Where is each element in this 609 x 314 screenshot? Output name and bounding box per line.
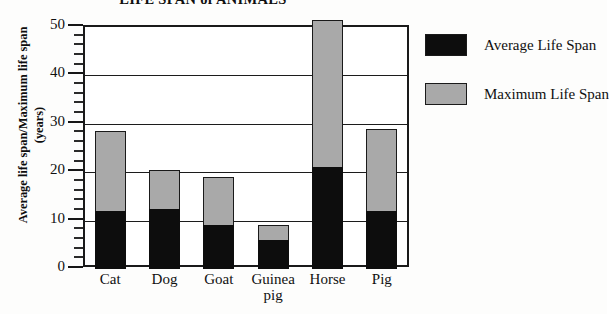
y-tick-label-50: 50 — [50, 17, 65, 32]
y-axis: 01020304050 — [0, 25, 83, 267]
y-tick-minor-38 — [74, 82, 83, 84]
y-tick-label-40: 40 — [50, 65, 65, 80]
legend-item-average[interactable]: Average Life Span — [425, 34, 605, 56]
y-tick-major-0 — [68, 266, 83, 268]
x-label-line: Goat — [204, 271, 233, 287]
y-tick-minor-44 — [74, 53, 83, 55]
y-tick-minor-18 — [74, 179, 83, 181]
legend-swatch-average — [425, 34, 467, 56]
y-tick-minor-32 — [74, 111, 83, 113]
y-tick-label-20: 20 — [50, 162, 65, 177]
y-tick-label-30: 30 — [50, 114, 65, 129]
y-tick-minor-22 — [74, 160, 83, 162]
chart-legend: Average Life SpanMaximum Life Span — [425, 34, 605, 132]
y-tick-minor-8 — [74, 227, 83, 229]
x-label-line: Cat — [100, 271, 121, 287]
bars-layer — [83, 0, 409, 269]
y-tick-minor-16 — [74, 189, 83, 191]
bar-group-horse[interactable] — [312, 2, 343, 269]
y-tick-minor-42 — [74, 63, 83, 65]
y-tick-minor-2 — [74, 256, 83, 258]
x-label-line: Dog — [152, 271, 178, 287]
y-tick-major-10 — [68, 218, 83, 220]
bar-group-dog[interactable] — [149, 2, 180, 269]
y-tick-major-30 — [68, 121, 83, 123]
bar-average-horse[interactable] — [312, 167, 343, 269]
bar-average-guinea-pig[interactable] — [258, 240, 289, 269]
legend-item-maximum[interactable]: Maximum Life Span — [425, 83, 605, 105]
bar-average-cat[interactable] — [95, 211, 126, 269]
y-tick-minor-46 — [74, 43, 83, 45]
y-tick-minor-6 — [74, 237, 83, 239]
y-tick-minor-48 — [74, 34, 83, 36]
x-label-line: pig — [233, 287, 313, 303]
x-label-pig: Pig — [342, 271, 422, 287]
bar-average-goat[interactable] — [203, 225, 234, 269]
y-tick-minor-28 — [74, 130, 83, 132]
bar-group-guinea-pig[interactable] — [258, 2, 289, 269]
bar-group-goat[interactable] — [203, 2, 234, 269]
y-tick-minor-4 — [74, 247, 83, 249]
y-tick-minor-14 — [74, 198, 83, 200]
y-tick-major-50 — [68, 24, 83, 26]
bar-group-pig[interactable] — [366, 2, 397, 269]
y-tick-label-10: 10 — [50, 211, 65, 226]
y-tick-minor-24 — [74, 150, 83, 152]
y-tick-major-40 — [68, 72, 83, 74]
y-tick-minor-26 — [74, 140, 83, 142]
legend-label: Average Life Span — [484, 37, 596, 53]
y-tick-label-0: 0 — [58, 259, 66, 274]
bar-group-cat[interactable] — [95, 2, 126, 269]
bar-average-dog[interactable] — [149, 209, 180, 270]
y-tick-minor-36 — [74, 92, 83, 94]
x-label-line: Pig — [372, 271, 392, 287]
y-tick-major-20 — [68, 169, 83, 171]
legend-label: Maximum Life Span — [484, 86, 609, 102]
legend-swatch-maximum — [425, 83, 467, 105]
y-tick-minor-12 — [74, 208, 83, 210]
x-label-line: Horse — [310, 271, 346, 287]
y-tick-minor-34 — [74, 101, 83, 103]
bar-average-pig[interactable] — [366, 211, 397, 269]
x-axis-labels: CatDogGoatGuineapigHorsePig — [83, 271, 409, 313]
